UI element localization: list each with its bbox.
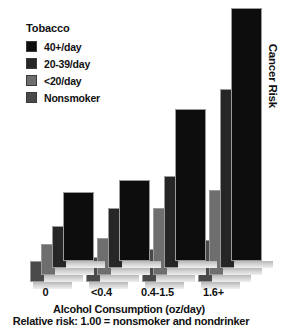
bar-shadow [66, 261, 105, 268]
x-axis-tick-label: 0 [16, 286, 75, 298]
bar-shadow [167, 268, 206, 275]
x-axis-tick-label: 1.6+ [184, 286, 243, 298]
bar-shadow [111, 268, 150, 275]
bar-shadow [156, 275, 195, 282]
bar-shadow [55, 268, 94, 275]
y-axis-title: Cancer Risk [267, 44, 279, 108]
x-axis-title: Alcohol Consumption (oz/day) [0, 303, 258, 315]
bar [175, 109, 206, 261]
chart-footnote: Relative risk: 1.00 = nonsmoker and nond… [0, 315, 262, 327]
bar-shadow [100, 275, 139, 282]
x-axis-tick-label: <0.4 [72, 286, 131, 298]
bar-shadow [178, 261, 217, 268]
plot-area [0, 0, 281, 285]
bar [119, 180, 150, 261]
bar [231, 8, 262, 261]
bar-shadow [234, 261, 273, 268]
bar [63, 192, 94, 261]
bar-shadow [212, 275, 251, 282]
x-axis-tick-label: 0.4-1.5 [128, 286, 187, 298]
cancer-risk-bar-chart: Tobacco 40+/day20-39/day<20/dayNonsmoker… [0, 0, 281, 329]
bar-shadow [44, 275, 83, 282]
bar-shadow [223, 268, 262, 275]
bar-shadow [122, 261, 161, 268]
